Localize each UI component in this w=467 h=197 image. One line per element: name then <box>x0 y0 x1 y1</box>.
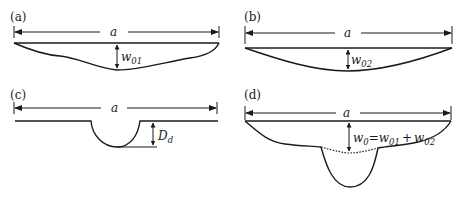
span-dimension-b: a <box>245 26 452 44</box>
total-deflection-equation: w0=w01+w02 <box>353 131 435 147</box>
panel-d: (d) a w0=w01+w02 <box>244 88 451 187</box>
span-label-a: a <box>110 25 117 39</box>
span-dimension-d: a <box>245 106 451 120</box>
deflection-label-w01: w01 <box>121 50 142 66</box>
span-label-c: a <box>111 101 118 115</box>
deflection-diagram: (a) a w01 (b) a w02 (c) <box>0 0 467 197</box>
span-label-b: a <box>344 26 351 40</box>
panel-c-label: (c) <box>10 88 26 102</box>
span-dimension-c: a <box>14 101 217 115</box>
deflection-label-w02: w02 <box>351 53 372 69</box>
local-dent-shape-c <box>15 121 218 147</box>
span-label-d: a <box>343 106 350 120</box>
panel-d-label: (d) <box>244 88 261 102</box>
panel-a-label: (a) <box>10 10 27 24</box>
local-dent-shape-d <box>321 147 378 187</box>
panel-c: (c) a Dd <box>10 88 218 147</box>
panel-b: (b) a w02 <box>244 10 452 71</box>
panel-b-label: (b) <box>244 10 261 24</box>
dent-depth-label-Dd: Dd <box>157 129 174 145</box>
span-dimension-a: a <box>14 25 219 39</box>
panel-a: (a) a w01 <box>10 10 219 70</box>
global-deflection-left-d <box>245 121 321 147</box>
